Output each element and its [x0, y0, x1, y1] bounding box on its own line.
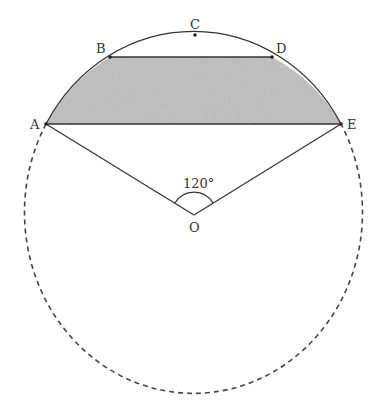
- label-e: E: [347, 117, 357, 132]
- point-b: [108, 55, 112, 59]
- diagram-canvas: A B C D E O 120°: [0, 0, 388, 418]
- label-b: B: [96, 41, 106, 56]
- dashed-arc: [25, 124, 363, 393]
- angle-label: 120°: [183, 176, 214, 191]
- angle-arc: [175, 192, 213, 203]
- label-o: O: [189, 220, 200, 235]
- point-e: [339, 122, 343, 126]
- radius-oe: [194, 124, 341, 215]
- point-a: [44, 122, 48, 126]
- geometry-diagram: A B C D E O 120°: [0, 0, 388, 418]
- label-c: C: [190, 17, 200, 32]
- shaded-region: [46, 57, 341, 124]
- point-c: [193, 33, 197, 37]
- label-a: A: [29, 117, 40, 132]
- label-d: D: [276, 41, 286, 56]
- point-d: [270, 55, 274, 59]
- radius-oa: [46, 124, 194, 215]
